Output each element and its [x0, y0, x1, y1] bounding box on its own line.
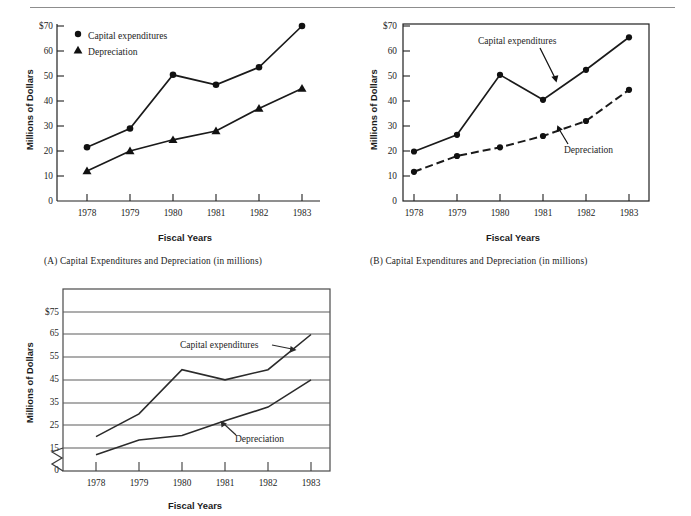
chart-a-y-tick-marks — [57, 26, 64, 176]
chart-b-x-axis-label: Fiscal Years — [486, 232, 540, 243]
chart-a-x-axis-label: Fiscal Years — [158, 232, 212, 243]
chart-a-series-capital-line — [87, 26, 302, 147]
chart-c-series-capital-line — [96, 335, 311, 437]
chart-c-figure: Millions of Dollars $75 65 55 45 35 25 1… — [0, 283, 420, 516]
chart-c-axis-break-zigzag — [52, 448, 63, 471]
chart-a-series-depreciation-line — [87, 89, 302, 172]
chart-b-x-tick-marks — [414, 194, 629, 201]
chart-b-series-capital-line — [414, 37, 629, 151]
chart-a-caption: (A) Capital Expenditures and Depreciatio… — [44, 256, 262, 266]
chart-c-annotation-arrow-depreciation — [221, 421, 236, 435]
chart-b-figure: Millions of Dollars $70 60 50 40 30 20 1… — [346, 0, 691, 275]
chart-b-series-depreciation-line — [414, 90, 629, 172]
chart-b-y-tick-marks — [403, 26, 410, 176]
chart-c-plot — [0, 283, 420, 503]
chart-c-series-depreciation-line — [96, 380, 311, 455]
chart-a-legend-circle-marker — [75, 31, 81, 37]
chart-a-plot — [0, 0, 350, 230]
chart-a-x-tick-marks — [87, 194, 302, 201]
chart-c-x-tick-marks — [96, 462, 311, 471]
chart-b-caption: (B) Capital Expenditures and Depreciatio… — [370, 256, 587, 266]
chart-a-series-depreciation-markers — [83, 84, 307, 174]
chart-b-annotation-arrow-capital — [540, 48, 558, 83]
chart-c-annotation-arrow-capital — [272, 345, 297, 353]
chart-c-gridlines — [63, 312, 330, 448]
chart-a-figure: Millions of Dollars $70 60 50 40 30 20 1… — [0, 0, 350, 275]
chart-b-series-capital-markers — [411, 34, 632, 154]
chart-b-plot — [346, 0, 691, 230]
chart-a-legend-triangle-marker — [74, 46, 83, 54]
chart-c-x-axis-label: Fiscal Years — [168, 500, 222, 511]
chart-a-series-capital-markers — [84, 23, 306, 151]
